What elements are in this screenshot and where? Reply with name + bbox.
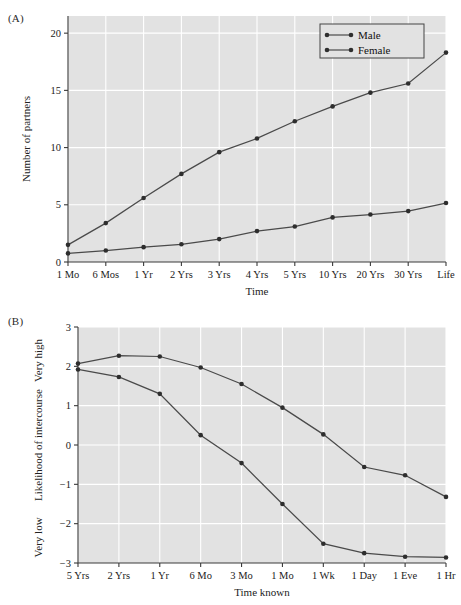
legend-swatch-dot — [349, 33, 354, 38]
data-point-male — [198, 365, 203, 370]
data-point-male — [141, 196, 146, 201]
x-tick-label: 1 Mo — [271, 570, 293, 581]
x-tick-label: 30 Yrs — [394, 269, 422, 280]
data-point-female — [255, 229, 260, 234]
data-point-male — [76, 361, 81, 366]
x-tick-label: 20 Yrs — [356, 269, 384, 280]
data-point-female — [293, 224, 298, 229]
data-point-female — [406, 209, 411, 214]
x-tick-label: Life — [437, 269, 455, 280]
x-axis-title: Time known — [234, 586, 290, 598]
x-tick-label: 6 Mo — [189, 570, 211, 581]
data-point-male — [403, 473, 408, 478]
x-tick-label: 1 Eve — [393, 570, 418, 581]
y-axis-low-label: Very low — [32, 517, 44, 557]
x-tick-label: 1 Yr — [134, 269, 153, 280]
y-tick-label: 20 — [51, 28, 62, 39]
x-tick-label: 10 Yrs — [319, 269, 347, 280]
x-tick-label: 6 Mos — [93, 269, 120, 280]
data-point-female — [444, 555, 449, 560]
data-point-male — [179, 172, 184, 177]
data-point-female — [117, 375, 122, 380]
x-tick-label: 3 Yrs — [208, 269, 231, 280]
y-axis-high-label: Very high — [32, 338, 44, 382]
x-tick-label: 4 Yrs — [246, 269, 269, 280]
data-point-female — [217, 237, 222, 242]
x-tick-label: 1 Yr — [150, 570, 169, 581]
data-point-female — [66, 251, 71, 256]
x-tick-label: 5 Yrs — [67, 570, 90, 581]
data-point-male — [362, 465, 367, 470]
data-point-female — [444, 201, 449, 206]
data-point-female — [157, 392, 162, 397]
data-point-female — [362, 551, 367, 556]
panel-b-label: (B) — [8, 315, 23, 327]
y-tick-label: 10 — [51, 142, 62, 153]
panel-a: (A) 051015201 Mo6 Mos1 Yr2 Yrs3 Yrs4 Yrs… — [0, 0, 461, 305]
y-tick-label: 2 — [66, 361, 71, 372]
y-tick-label: −2 — [60, 518, 71, 529]
y-tick-label: −1 — [60, 479, 71, 490]
y-tick-label: −3 — [60, 558, 71, 569]
x-tick-label: 1 Wk — [312, 570, 336, 581]
data-point-male — [330, 104, 335, 109]
y-tick-label: 15 — [51, 85, 62, 96]
legend-label: Male — [358, 29, 381, 41]
y-tick-label: 0 — [56, 257, 61, 268]
panel-a-label: (A) — [8, 12, 24, 24]
legend-swatch-dot — [349, 48, 354, 53]
x-tick-label: 2 Yrs — [170, 269, 193, 280]
y-tick-label: 1 — [66, 400, 71, 411]
data-point-female — [280, 502, 285, 507]
data-point-female — [321, 541, 326, 546]
data-point-female — [179, 242, 184, 247]
y-axis-title: Likelihood of intercourse — [32, 389, 44, 501]
data-point-male — [255, 136, 260, 141]
data-point-male — [321, 432, 326, 437]
panel-b: (B) 3210−1−2−35 Yrs2 Yrs1 Yr6 Mo3 Mo1 Mo… — [0, 305, 461, 605]
data-point-female — [141, 245, 146, 250]
x-tick-label: 1 Hr — [437, 570, 456, 581]
data-point-male — [444, 495, 449, 500]
legend-swatch-dot — [325, 48, 330, 53]
data-point-male — [66, 243, 71, 248]
data-point-male — [280, 405, 285, 410]
x-tick-label: 1 Day — [352, 570, 378, 581]
legend-label: Female — [358, 44, 390, 56]
chart-panel-a: 051015201 Mo6 Mos1 Yr2 Yrs3 Yrs4 Yrs5 Yr… — [0, 0, 461, 305]
data-point-female — [330, 215, 335, 220]
data-point-male — [104, 221, 109, 226]
chart-panel-b: 3210−1−2−35 Yrs2 Yrs1 Yr6 Mo3 Mo1 Mo1 Wk… — [0, 305, 461, 605]
y-axis-title: Number of partners — [20, 96, 32, 182]
data-point-female — [368, 212, 373, 217]
data-point-male — [117, 353, 122, 358]
x-axis-title: Time — [246, 285, 269, 297]
data-point-male — [368, 90, 373, 95]
data-point-female — [76, 367, 81, 372]
x-tick-label: 1 Mo — [57, 269, 79, 280]
legend-swatch-dot — [325, 33, 330, 38]
y-tick-label: 5 — [56, 199, 61, 210]
data-point-male — [217, 150, 222, 155]
data-point-male — [239, 382, 244, 387]
data-point-female — [198, 433, 203, 438]
data-point-male — [293, 119, 298, 124]
x-tick-label: 5 Yrs — [283, 269, 306, 280]
data-point-female — [403, 554, 408, 559]
x-tick-label: 3 Mo — [230, 570, 252, 581]
y-tick-label: 0 — [66, 440, 71, 451]
y-tick-label: 3 — [66, 322, 71, 333]
data-point-male — [157, 354, 162, 359]
data-point-male — [406, 81, 411, 86]
x-tick-label: 2 Yrs — [108, 570, 131, 581]
data-point-female — [239, 461, 244, 466]
data-point-male — [444, 50, 449, 55]
data-point-female — [104, 248, 109, 253]
